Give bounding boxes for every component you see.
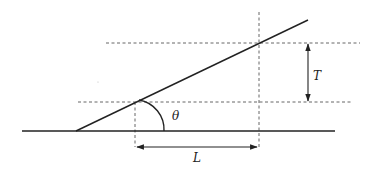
T-label: T (313, 69, 322, 83)
theta-label: θ (172, 109, 180, 123)
theta-arc (139, 100, 164, 131)
stray-mark (97, 81, 98, 82)
thickness-diagram: θ T L (0, 0, 372, 169)
incline-line (76, 20, 308, 131)
L-label: L (192, 151, 201, 165)
